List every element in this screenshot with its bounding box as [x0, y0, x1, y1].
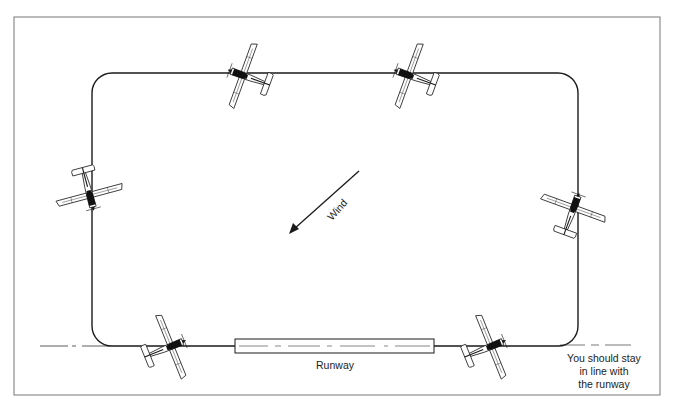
note-line-3: the runway	[548, 378, 660, 391]
runway	[235, 339, 434, 353]
note-line-1: You should stay	[548, 352, 660, 365]
airplane-icon	[532, 181, 612, 246]
airplane-icon	[132, 309, 199, 389]
wind-label: Wind	[325, 196, 350, 222]
airplane-icon	[49, 159, 127, 220]
airplane-icon	[452, 309, 519, 389]
traffic-pattern-diagram: Wind	[0, 0, 673, 401]
airplane-icon	[382, 38, 447, 118]
runway-label: Runway	[290, 359, 380, 371]
airplane-icon	[216, 38, 281, 118]
wind-arrow-icon	[289, 171, 359, 234]
note-line-2: in line with	[548, 365, 660, 378]
runway-alignment-note: You should stay in line with the runway	[548, 352, 660, 391]
